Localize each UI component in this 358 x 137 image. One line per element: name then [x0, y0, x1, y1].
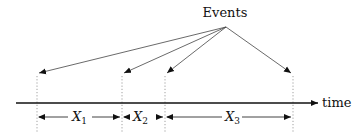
interval-x2-label: X2	[132, 109, 148, 126]
events-label: Events	[203, 5, 248, 20]
pointer-event-2	[124, 27, 226, 73]
event-pointers	[39, 27, 291, 73]
interval-x1-label: X1	[71, 109, 87, 126]
interval-x3-label: X3	[224, 109, 240, 126]
pointer-event-1	[39, 27, 226, 73]
event-timeline-diagram: Events time X1 X2 X3	[0, 0, 358, 137]
pointer-event-4	[226, 27, 291, 73]
time-axis-label: time	[322, 95, 352, 110]
